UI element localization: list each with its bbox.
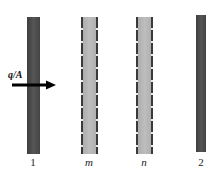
shield-m: [81, 17, 98, 154]
shield-n-label: n: [134, 156, 154, 168]
flux-label: q/A: [8, 69, 22, 80]
plate-1-label: 1: [23, 156, 43, 168]
shield-m-left-edge: [81, 17, 83, 154]
shield-n: [136, 17, 153, 154]
shield-n-left-edge: [136, 17, 138, 154]
shield-n-right-edge: [151, 17, 153, 154]
plate-2-label: 2: [191, 156, 211, 168]
shield-m-label: m: [79, 156, 99, 168]
plate-2: [196, 15, 206, 152]
heat-flux-arrow-icon: [12, 80, 56, 90]
shield-m-right-edge: [96, 17, 98, 154]
